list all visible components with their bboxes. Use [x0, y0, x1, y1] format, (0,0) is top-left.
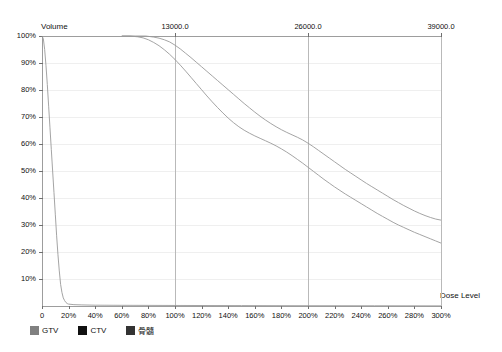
legend-swatch-gtv: [30, 326, 39, 335]
top-tick-label: 39000.0: [411, 22, 471, 31]
dvh-chart: Volume Dose Level GTV CTV 骨髓 100%90%80%7…: [0, 0, 502, 352]
legend-label-ctv: CTV: [90, 326, 106, 335]
y-tick-label: 60%: [10, 139, 36, 148]
x-tick-label: 200%: [293, 311, 323, 320]
x-tick-label: 0: [27, 311, 57, 320]
x-tick-label: 80%: [133, 311, 163, 320]
y-tick-label: 50%: [10, 166, 36, 175]
y-tick-label: 10%: [10, 274, 36, 283]
y-tick-label: 70%: [10, 112, 36, 121]
y-tick-label: 90%: [10, 58, 36, 67]
legend-item-ctv[interactable]: CTV: [78, 326, 106, 335]
x-tick-label: 240%: [346, 311, 376, 320]
x-tick-label: 100%: [160, 311, 190, 320]
top-tick-label: 13000.0: [145, 22, 205, 31]
legend-swatch-bone-marrow: [126, 326, 135, 335]
x-tick-label: 140%: [213, 311, 243, 320]
x-tick-label: 160%: [240, 311, 270, 320]
x-tick-label: 220%: [320, 311, 350, 320]
series-line-骨髓: [42, 36, 441, 306]
x-tick-label: 20%: [54, 311, 84, 320]
x-tick-label: 40%: [80, 311, 110, 320]
legend-swatch-ctv: [78, 326, 87, 335]
legend-item-gtv[interactable]: GTV: [30, 326, 58, 335]
legend-item-bone-marrow[interactable]: 骨髓: [126, 325, 154, 336]
x-tick-label: 120%: [187, 311, 217, 320]
x-tick-label: 180%: [266, 311, 296, 320]
top-tick-label: 26000.0: [278, 22, 338, 31]
x-tick-label: 60%: [107, 311, 137, 320]
plot-canvas: [0, 0, 502, 352]
x-tick-label: 280%: [399, 311, 429, 320]
y-tick-label: 100%: [10, 31, 36, 40]
y-tick-label: 30%: [10, 220, 36, 229]
legend-label-gtv: GTV: [42, 326, 58, 335]
y-tick-label: 80%: [10, 85, 36, 94]
legend-label-bone-marrow: 骨髓: [138, 325, 154, 336]
series-line-ctv: [122, 36, 441, 243]
y-tick-label: 40%: [10, 193, 36, 202]
x-tick-label: 300%: [426, 311, 456, 320]
chart-legend: GTV CTV 骨髓: [30, 322, 154, 338]
x-tick-label: 260%: [373, 311, 403, 320]
y-tick-label: 20%: [10, 247, 36, 256]
